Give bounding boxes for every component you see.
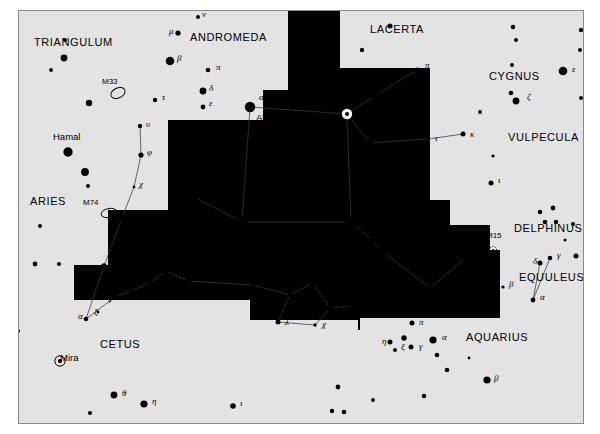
greek-star-label: κ bbox=[470, 129, 475, 139]
star-dot bbox=[462, 252, 472, 262]
milky-way-patch bbox=[218, 10, 288, 90]
star-chart: M33M74M15νμβπδετυφχηοαβγαπημλικξζθειεζδγ… bbox=[0, 0, 600, 434]
constellation-name: EQUULEUS bbox=[519, 271, 584, 283]
named-star-label: Markab bbox=[330, 222, 362, 233]
star-dot bbox=[422, 394, 426, 398]
constellation-name: TRIANGULUM bbox=[34, 36, 113, 48]
star-dot bbox=[401, 335, 406, 340]
star-dot bbox=[445, 368, 450, 373]
greek-star-label: α bbox=[78, 311, 83, 321]
greek-star-label: η bbox=[382, 336, 387, 346]
star-dot bbox=[289, 58, 293, 62]
greek-star-label: β bbox=[344, 94, 350, 104]
star-dot bbox=[429, 336, 436, 343]
star-dot bbox=[372, 91, 380, 99]
deep-sky-label: M15 bbox=[486, 231, 502, 240]
star-dot bbox=[148, 281, 151, 284]
greek-star-label: γ bbox=[234, 214, 238, 224]
star-dot bbox=[468, 357, 471, 360]
star-dot bbox=[112, 294, 117, 299]
greek-star-label: ξ bbox=[401, 342, 405, 352]
star-dot bbox=[501, 285, 504, 288]
variable-star-core bbox=[345, 112, 349, 116]
greek-star-label: π bbox=[216, 62, 221, 72]
star-dot bbox=[138, 152, 143, 157]
greek-star-label: μ bbox=[168, 26, 174, 36]
greek-star-label: β bbox=[176, 53, 182, 63]
star-dot bbox=[330, 409, 334, 413]
star-dot bbox=[322, 297, 325, 300]
constellation-name: PEGASUS bbox=[366, 183, 423, 195]
greek-star-label: θ bbox=[320, 275, 325, 285]
greek-star-label: ο bbox=[112, 258, 117, 268]
milky-way-patch bbox=[18, 210, 108, 265]
greek-star-label: π bbox=[419, 317, 424, 327]
greek-star-label: ε bbox=[474, 247, 478, 257]
star-dot bbox=[166, 57, 175, 66]
star-dot bbox=[49, 68, 53, 72]
named-star-label: Alpheratz bbox=[256, 112, 296, 123]
greek-star-label: β bbox=[508, 279, 514, 289]
cluster-core bbox=[492, 249, 494, 251]
star-dot bbox=[153, 98, 157, 102]
star-dot bbox=[327, 305, 333, 311]
star-dot bbox=[436, 297, 439, 300]
greek-star-label: α bbox=[259, 92, 264, 102]
star-dot bbox=[410, 321, 415, 326]
star-dot bbox=[375, 150, 380, 155]
greek-star-label: η bbox=[129, 210, 134, 220]
constellation-name: VULPECULA bbox=[508, 131, 579, 143]
greek-star-label: ε bbox=[172, 268, 176, 278]
constellation-name: LACERTA bbox=[370, 23, 424, 35]
star-dot bbox=[461, 132, 466, 137]
named-star-label: Hamal bbox=[53, 131, 80, 142]
star-dot bbox=[237, 217, 247, 227]
greek-star-label: θ bbox=[434, 271, 439, 281]
star-dot bbox=[251, 283, 255, 287]
star-dot bbox=[393, 348, 397, 352]
star-dot bbox=[483, 376, 490, 383]
star-dot bbox=[138, 124, 142, 128]
star-dot bbox=[33, 262, 38, 267]
greek-star-label: γ bbox=[557, 250, 561, 260]
greek-star-label: ν bbox=[108, 295, 112, 305]
star-dot bbox=[548, 256, 553, 261]
star-dot bbox=[491, 154, 494, 157]
deep-sky-label: M74 bbox=[83, 198, 99, 207]
star-dot bbox=[347, 303, 352, 308]
constellation-name: DELPHINUS bbox=[514, 222, 582, 234]
star-dot bbox=[61, 55, 68, 62]
star-dot bbox=[478, 110, 482, 114]
star-dot bbox=[206, 68, 211, 73]
greek-star-label: α bbox=[442, 332, 447, 342]
greek-star-label: μ bbox=[362, 138, 368, 148]
star-dot bbox=[427, 285, 433, 291]
star-dot bbox=[200, 88, 207, 95]
greek-star-label: η bbox=[389, 89, 394, 99]
star-dot bbox=[195, 197, 198, 200]
star-dot bbox=[531, 298, 536, 303]
star-dot bbox=[510, 63, 514, 67]
star-dot bbox=[409, 345, 414, 350]
star-dot bbox=[489, 181, 494, 186]
star-dot bbox=[435, 353, 440, 358]
greek-star-label: α bbox=[540, 292, 545, 302]
star-dot bbox=[369, 237, 374, 242]
greek-star-label: λ bbox=[382, 142, 387, 152]
star-dot bbox=[101, 263, 106, 268]
greek-star-label: ξ bbox=[379, 232, 383, 242]
greek-star-label: η bbox=[152, 396, 157, 406]
star-dot bbox=[514, 38, 518, 42]
star-dot bbox=[426, 307, 429, 310]
star-dot bbox=[194, 155, 200, 161]
star-dot bbox=[133, 186, 136, 189]
constellation-name: PISCES bbox=[163, 210, 207, 222]
star-dot bbox=[57, 262, 61, 266]
greek-star-label: γ bbox=[419, 341, 423, 351]
star-dot bbox=[310, 280, 316, 286]
star-dot bbox=[342, 410, 347, 415]
star-dot bbox=[38, 224, 42, 228]
greek-star-label: α bbox=[356, 210, 361, 220]
star-dot bbox=[378, 247, 386, 255]
greek-star-label: ε bbox=[209, 98, 213, 108]
